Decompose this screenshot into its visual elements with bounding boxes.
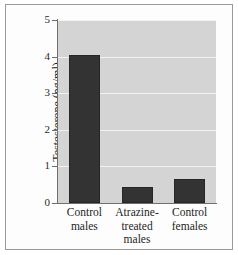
x-axis-category-label-line: Control [157, 206, 222, 220]
plot-area [58, 20, 216, 203]
y-tick-label: 3 [4, 87, 50, 98]
x-axis-category-label: Controlfemales [157, 206, 222, 233]
x-axis-category-label-line: females [157, 220, 222, 234]
y-tick-label: 1 [4, 160, 50, 171]
x-axis-category-labels: ControlmalesAtrazine-treatedmalesControl… [58, 206, 216, 254]
bar [174, 179, 205, 203]
figure: Testosterone (ng/ml) 012345 Controlmales… [0, 0, 238, 255]
x-axis-line [57, 203, 217, 204]
bar [69, 55, 100, 203]
x-axis-category-label-line: males [105, 233, 170, 247]
bar [122, 187, 153, 203]
y-tick-label: 0 [4, 197, 50, 208]
y-tick-label: 2 [4, 124, 50, 135]
gridline [58, 20, 216, 21]
y-tick-label: 5 [4, 14, 50, 25]
y-tick-label: 4 [4, 51, 50, 62]
y-axis-title-container: Testosterone (ng/ml) [38, 20, 54, 203]
